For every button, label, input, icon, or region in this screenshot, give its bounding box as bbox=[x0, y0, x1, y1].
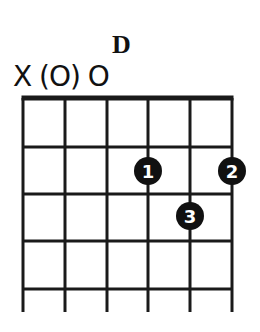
finger-number: 3 bbox=[184, 206, 197, 227]
finger-number: 1 bbox=[142, 161, 155, 182]
finger-dot: 2 bbox=[218, 157, 246, 185]
nut bbox=[22, 96, 234, 101]
finger-number: 2 bbox=[226, 161, 239, 182]
finger-dot: 1 bbox=[134, 157, 162, 185]
finger-dot: 3 bbox=[176, 202, 204, 230]
fretboard: 123 bbox=[0, 0, 260, 332]
